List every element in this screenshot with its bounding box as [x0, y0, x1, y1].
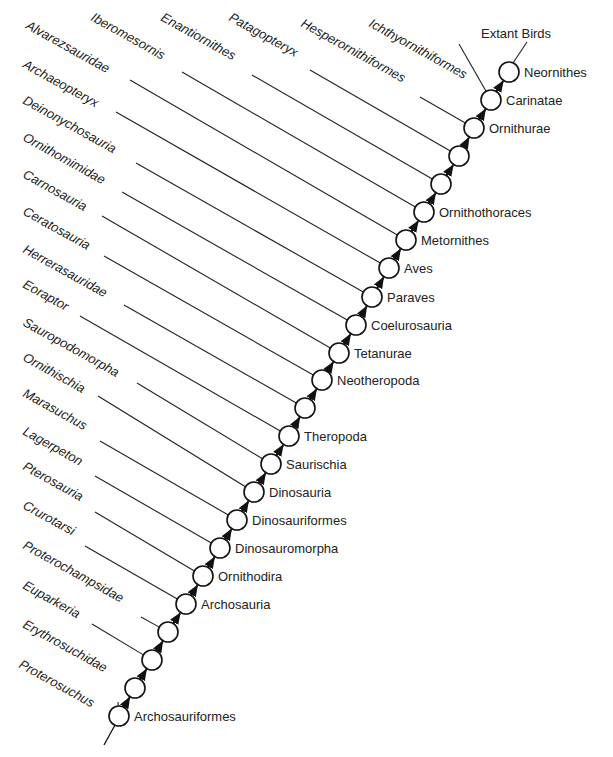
clade-neornithes: Neornithes: [524, 65, 587, 80]
node-circle: [499, 62, 519, 82]
node-circle: [396, 230, 416, 250]
node-circle: [125, 678, 145, 698]
branch-iberomesornis: [182, 72, 415, 207]
stem-arrow: [225, 529, 231, 539]
stem-arrow: [294, 418, 300, 428]
stem-arrow: [310, 389, 316, 399]
node-circle: [244, 482, 264, 502]
clade-ornithodira: Ornithodira: [218, 569, 283, 584]
branch-deinonychosauria: [136, 163, 363, 292]
clade-dinosauromorpha: Dinosauromorpha: [235, 541, 339, 556]
branch-ceratosauria: [104, 256, 313, 375]
stem-arrow: [344, 334, 350, 344]
stem-arrow: [496, 81, 503, 91]
clade-dinosauria: Dinosauria: [269, 485, 332, 500]
branch-lines: [80, 42, 527, 706]
node-circle: [346, 315, 366, 335]
clade-tetanurae: Tetanurae: [354, 346, 412, 361]
branch-enantiornithes: [252, 75, 432, 179]
clade-archosauriformes: Archosauriformes: [134, 709, 236, 724]
stem-arrow: [464, 138, 469, 147]
node-circle: [158, 622, 178, 642]
node-circle: [279, 426, 299, 446]
stem-arrow: [124, 698, 130, 708]
stem-arrow: [411, 221, 418, 231]
taxon-crurotarsi: Crurotarsi: [21, 498, 79, 539]
node-circle: [227, 510, 247, 530]
branch-carnosauria: [102, 216, 330, 348]
node-circle: [109, 706, 129, 726]
branch-extant-birds: [513, 42, 527, 63]
clade-archosauria: Archosauria: [201, 597, 271, 612]
branch-hesperornithiformes: [420, 97, 465, 123]
clade-ornithurae: Ornithurae: [489, 121, 550, 136]
node-circle: [176, 594, 196, 614]
node-circle: [449, 146, 469, 166]
taxon-extant-birds: Extant Birds: [481, 26, 552, 41]
taxon-patagopteryx: Patagopteryx: [227, 10, 302, 60]
branch-ornithischia: [98, 396, 245, 487]
node-circle: [329, 343, 349, 363]
clade-neotheropoda: Neotheropoda: [337, 373, 420, 388]
node-circle: [210, 538, 230, 558]
stem-arrow: [479, 109, 485, 119]
stem-arrow: [242, 501, 248, 511]
node-circle: [464, 118, 484, 138]
branch-sauropodomorpha: [137, 383, 262, 459]
node-circle: [414, 202, 434, 222]
stem-arrow: [191, 585, 197, 595]
clade-aves: Aves: [404, 261, 433, 276]
node-circle: [379, 258, 399, 278]
stem-arrow: [173, 613, 180, 623]
branch-pterosauria: [95, 512, 194, 571]
stem-arrow: [446, 165, 453, 175]
stem-arrow: [377, 277, 383, 288]
taxon-iberomesornis: Iberomesornis: [89, 10, 169, 63]
taxon-eoraptor: Eoraptor: [21, 277, 72, 315]
branch-lagerpeton: [95, 476, 211, 543]
branch-archaeopteryx: [116, 112, 380, 263]
clade-paraves: Paraves: [387, 290, 435, 305]
labels: ProterosuchusErythrosuchidaeEuparkeriaPr…: [17, 10, 588, 724]
node-circle: [431, 174, 451, 194]
stem-arrow: [327, 362, 333, 371]
clade-coelurosauria: Coelurosauria: [371, 318, 453, 333]
stem-arrow: [429, 193, 435, 203]
node-circle: [193, 566, 213, 586]
stem-arrow: [361, 307, 367, 317]
node-circle: [481, 90, 501, 110]
clade-dinosauriformes: Dinosauriformes: [252, 513, 347, 528]
node-circle: [312, 370, 332, 390]
branch-marasuchus: [100, 441, 228, 515]
clade-theropoda: Theropoda: [304, 429, 368, 444]
cladogram: ProterosuchusErythrosuchidaeEuparkeriaPr…: [0, 0, 613, 757]
branch-patagopteryx: [310, 70, 450, 151]
branch-alvarezsauridae: [130, 80, 397, 235]
stem-arrow: [157, 642, 163, 652]
node-circle: [362, 287, 382, 307]
node-circle: [295, 398, 315, 418]
node-circle: [142, 650, 162, 670]
clade-metornithes: Metornithes: [421, 233, 489, 248]
branch-herrerasauridae: [124, 305, 296, 403]
clade-saurischia: Saurischia: [286, 457, 347, 472]
stem-arrow: [140, 669, 146, 679]
clade-carinatae: Carinatae: [506, 93, 562, 108]
root-stem: [104, 725, 115, 745]
stem-arrow: [259, 473, 265, 483]
branch-euparkeria: [92, 624, 143, 655]
taxon-enantiornithes: Enantiornithes: [159, 10, 239, 64]
stem-arrow: [394, 249, 400, 259]
branch-proterochampsidae: [141, 617, 159, 627]
stem-arrow: [276, 445, 283, 455]
clade-ornithothoraces: Ornithothoraces: [439, 205, 532, 220]
node-circle: [261, 454, 281, 474]
stem-arrow: [208, 557, 214, 567]
taxon-euparkeria: Euparkeria: [21, 578, 83, 622]
branch-ornithomimidae: [122, 192, 347, 320]
